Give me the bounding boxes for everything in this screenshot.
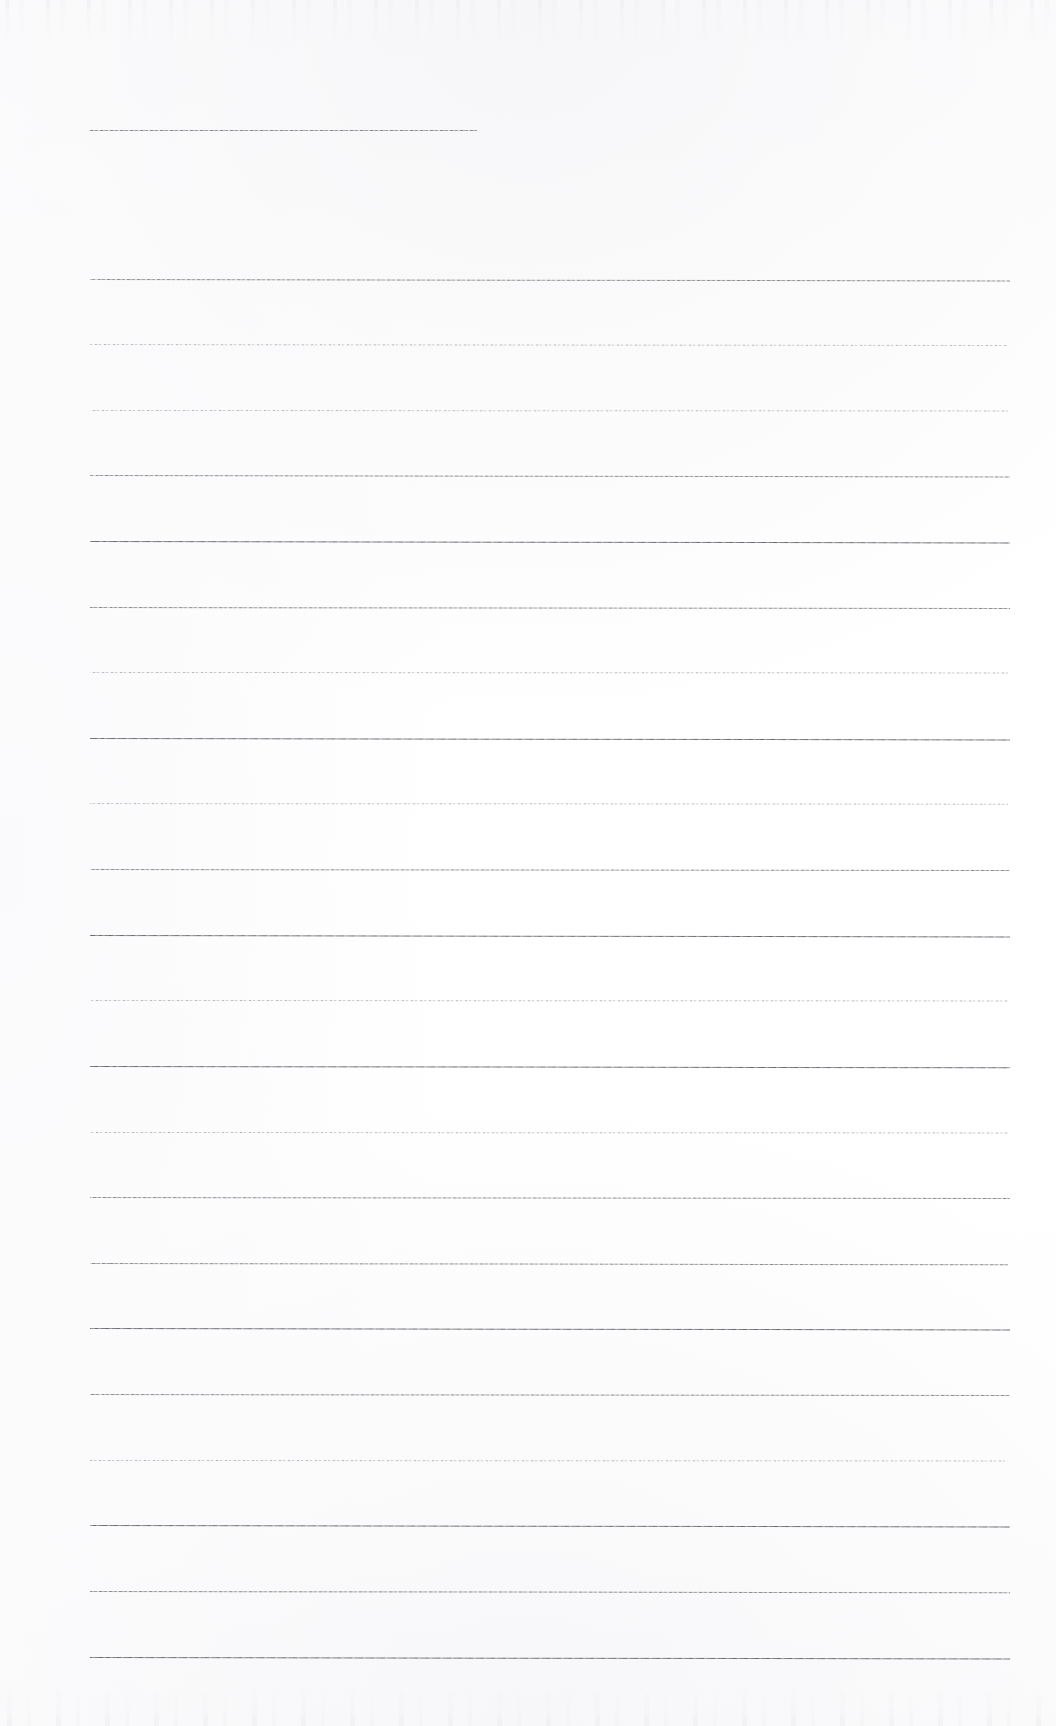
ruled-line-ink: [90, 803, 1008, 805]
ruled-line: [90, 1197, 1010, 1199]
ruled-line: [90, 410, 1008, 411]
ruled-line: [90, 1066, 1010, 1068]
ruled-line: [90, 672, 1008, 673]
ruled-line: [90, 803, 1008, 805]
ruled-line: [90, 1657, 1010, 1659]
ruled-line-ink: [90, 1657, 1010, 1659]
ruled-line-ink: [90, 1263, 1008, 1265]
ruled-line-ink: [90, 1197, 1010, 1199]
ruled-line: [90, 1460, 1008, 1461]
ruled-line-ink: [90, 1591, 1010, 1593]
ruled-line-ink: [90, 279, 1010, 281]
scan-noise-bottom: [0, 1686, 1056, 1726]
ruled-line-ink: [90, 410, 1008, 411]
ruled-line: [90, 1000, 1008, 1001]
ruled-line-ink: [90, 541, 1010, 543]
ruled-line-ink: [90, 607, 1010, 609]
ruled-line: [90, 1525, 1010, 1527]
ruled-line-ink: [90, 1328, 1010, 1330]
ruled-line: [90, 475, 1010, 477]
ruled-line-ink: [90, 1394, 1010, 1396]
ruled-line: [90, 130, 477, 131]
paper-surface: [0, 0, 1056, 1726]
ruled-line: [90, 1394, 1010, 1396]
ruled-line: [90, 1591, 1010, 1593]
ruled-line: [90, 1263, 1008, 1265]
ruled-line: [90, 279, 1010, 281]
ruled-line: [90, 344, 1008, 346]
ruled-line: [90, 935, 1010, 937]
ruled-line: [90, 1328, 1010, 1330]
ruled-line-ink: [90, 1000, 1008, 1001]
ruled-line: [90, 1132, 1008, 1133]
ruled-line-ink: [90, 1460, 1008, 1461]
ruled-line-ink: [90, 1525, 1010, 1527]
ruled-line: [90, 607, 1010, 609]
scanned-page: [0, 0, 1056, 1726]
ruled-line-ink: [90, 738, 1010, 740]
ruled-line: [90, 738, 1010, 740]
ruled-line-ink: [90, 935, 1010, 937]
ruled-line: [90, 541, 1010, 543]
ruled-line-ink: [90, 1132, 1008, 1133]
ruled-line-ink: [90, 130, 477, 131]
ruled-line-ink: [90, 344, 1008, 346]
ruled-line-ink: [90, 1066, 1010, 1068]
ruled-line-ink: [90, 475, 1010, 477]
ruled-line-ink: [90, 869, 1010, 871]
ruled-line: [90, 869, 1010, 871]
scan-noise-top: [0, 0, 1056, 46]
ruled-line-ink: [90, 672, 1008, 673]
